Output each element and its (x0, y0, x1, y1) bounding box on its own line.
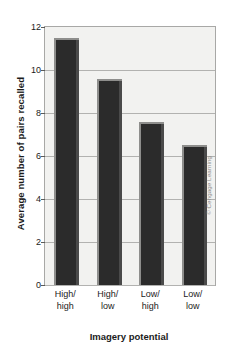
y-axis-tick-label: 6 (36, 151, 41, 161)
x-axis-tick-label: Low/high (129, 289, 172, 312)
x-axis-tick-label-line: low (87, 301, 130, 313)
plot-area: 024681012 (44, 26, 216, 286)
y-axis-tick-label: 2 (36, 237, 41, 247)
x-axis-tick-label-line: high (44, 301, 87, 313)
bar (139, 122, 164, 285)
bar-highlight (161, 124, 164, 285)
x-axis-tick-label: High/low (87, 289, 130, 312)
y-axis-tick-label: 10 (31, 65, 41, 75)
bar-slot (130, 27, 173, 285)
x-axis-tick-label: High/high (44, 289, 87, 312)
x-axis-tick-label: Low/low (172, 289, 215, 312)
x-axis-tick-label-line: High/ (44, 289, 87, 301)
bar-highlight (119, 81, 122, 285)
x-axis-tick-label-line: Low/ (129, 289, 172, 301)
y-axis-tick-label: 12 (31, 22, 41, 32)
x-axis-tick-labels: High/highHigh/lowLow/highLow/low (44, 289, 216, 323)
gridline (45, 285, 215, 286)
x-axis-tick-label-line: Low/ (172, 289, 215, 301)
x-axis-tick-label-line: low (172, 301, 215, 313)
bar (54, 38, 79, 285)
x-axis-tick-label-line: high (129, 301, 172, 313)
x-axis-tick-label-line: High/ (87, 289, 130, 301)
y-axis-title: Average number of pairs recalled (15, 39, 26, 269)
y-axis-tick-label: 4 (36, 194, 41, 204)
copyright-credit: © Cengage Learning (205, 135, 212, 215)
y-axis-tick-mark (41, 285, 45, 286)
y-axis-tick-label: 8 (36, 108, 41, 118)
bars-layer (45, 27, 215, 285)
y-axis-tick-label: 0 (36, 280, 41, 290)
x-axis-title: Imagery potential (34, 331, 224, 342)
bar-chart-figure: Average number of pairs recalled 0246810… (0, 0, 246, 358)
bar-slot (45, 27, 88, 285)
bar-slot (88, 27, 131, 285)
bar (182, 145, 207, 285)
bar-highlight (76, 40, 79, 285)
bar (97, 79, 122, 285)
